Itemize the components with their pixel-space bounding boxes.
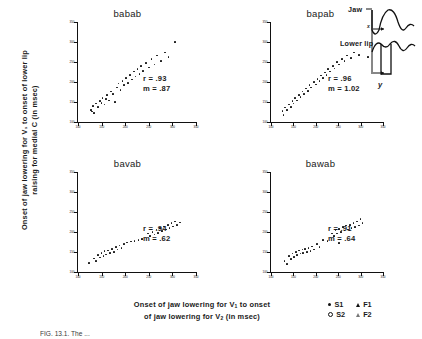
data-point xyxy=(134,240,136,242)
data-point xyxy=(292,253,294,255)
data-point xyxy=(164,52,166,54)
data-point xyxy=(145,62,147,64)
y-tick xyxy=(74,192,78,193)
legend-item-F1: F1 xyxy=(356,300,372,309)
figure-scatter-matrix: Onset of jaw lowering for V₁ to onset of… xyxy=(0,0,422,339)
data-point xyxy=(327,68,329,70)
x-tick-label: 250 xyxy=(146,125,151,129)
data-point xyxy=(123,84,125,86)
legend-label: S1 xyxy=(334,300,343,309)
data-point xyxy=(288,255,290,257)
data-point xyxy=(93,258,95,260)
data-point xyxy=(121,247,123,249)
data-point xyxy=(300,253,302,255)
data-point xyxy=(99,257,101,259)
legend: S1F1S2F2 xyxy=(328,300,372,319)
y-tick xyxy=(267,22,271,23)
plot-area: 100150200250300350100150200250300350 xyxy=(270,172,383,273)
x-tick-label: 350 xyxy=(194,275,199,279)
data-point xyxy=(126,242,128,244)
data-point xyxy=(336,61,338,63)
data-point xyxy=(310,250,312,252)
stat-m: m = .64 xyxy=(328,234,355,244)
y-tick xyxy=(267,252,271,253)
data-point xyxy=(283,114,285,116)
data-point xyxy=(97,254,99,256)
y-tick-label: 100 xyxy=(263,120,268,124)
data-point xyxy=(105,98,107,100)
stat-r: r = .94 xyxy=(143,224,170,234)
data-point xyxy=(303,93,305,95)
data-point xyxy=(148,67,150,69)
data-point xyxy=(111,248,113,250)
waveform-inset: Jaw Lower lip x y xyxy=(340,0,422,96)
data-point xyxy=(131,79,133,81)
y-tick xyxy=(267,232,271,233)
x-tick-label: 300 xyxy=(170,275,175,279)
y-tick-label: 200 xyxy=(70,80,75,84)
x-tick-label: 300 xyxy=(358,125,363,129)
y-tick-label: 200 xyxy=(263,80,268,84)
data-point xyxy=(119,245,121,247)
x-axis-label-line2: of jaw lowering for V2 (in msec) xyxy=(92,312,312,324)
y-tick-label: 100 xyxy=(263,270,268,274)
y-axis-label-line2: raising for medial C (in msec) xyxy=(30,15,40,265)
data-point xyxy=(125,77,127,79)
stat-r: r = .93 xyxy=(143,74,170,84)
x-tick-label: 150 xyxy=(99,275,104,279)
data-point xyxy=(114,101,116,103)
panel-title-babab: babab xyxy=(55,8,200,19)
data-point xyxy=(112,93,114,95)
data-point xyxy=(127,82,129,84)
data-point xyxy=(290,258,292,260)
stat-m: m = .87 xyxy=(143,84,170,94)
scatter-panel-bawab: bawab10015020025030035010015020025030035… xyxy=(248,158,393,286)
data-point xyxy=(129,74,131,76)
x-tick-label: 100 xyxy=(76,125,81,129)
y-tick-label: 150 xyxy=(263,250,268,254)
y-tick xyxy=(74,82,78,83)
x-tick-label: 300 xyxy=(358,275,363,279)
legend-label: F1 xyxy=(363,300,372,309)
y-tick xyxy=(267,42,271,43)
data-point xyxy=(102,97,104,99)
plot-area: 100150200250300350100150200250300350 xyxy=(77,172,196,273)
y-tick xyxy=(74,232,78,233)
data-point xyxy=(288,104,290,106)
data-point xyxy=(92,105,94,107)
data-point xyxy=(319,246,321,248)
x-tick-label: 100 xyxy=(76,275,81,279)
data-point xyxy=(322,77,324,79)
data-point xyxy=(88,262,90,264)
data-point xyxy=(97,106,99,108)
y-tick xyxy=(267,82,271,83)
data-point xyxy=(295,251,297,253)
data-point xyxy=(298,250,300,252)
x-tick-label: 200 xyxy=(313,125,318,129)
data-point xyxy=(302,249,304,251)
y-tick xyxy=(74,172,78,173)
legend-label: S2 xyxy=(336,310,345,319)
data-point xyxy=(118,83,120,85)
x-tick-label: 150 xyxy=(99,125,104,129)
data-point xyxy=(156,55,158,57)
data-point xyxy=(334,68,336,70)
data-point xyxy=(305,88,307,90)
data-point xyxy=(296,100,298,102)
y-tick-label: 350 xyxy=(70,20,75,24)
data-point xyxy=(135,76,137,78)
x-tick-label: 200 xyxy=(123,275,128,279)
data-point xyxy=(116,87,118,89)
data-point xyxy=(356,221,358,223)
data-point xyxy=(137,68,139,70)
x-tick-label: 100 xyxy=(269,125,274,129)
data-point xyxy=(154,64,156,66)
data-point xyxy=(171,222,173,224)
filled-circle-icon xyxy=(328,303,331,306)
x-tick-label: 250 xyxy=(146,275,151,279)
data-point xyxy=(315,84,317,86)
panel-stats: r = .93m = .87 xyxy=(143,74,170,93)
data-point xyxy=(104,104,106,106)
inset-y-label: y xyxy=(378,80,382,89)
legend-item-F2: F2 xyxy=(356,310,372,319)
